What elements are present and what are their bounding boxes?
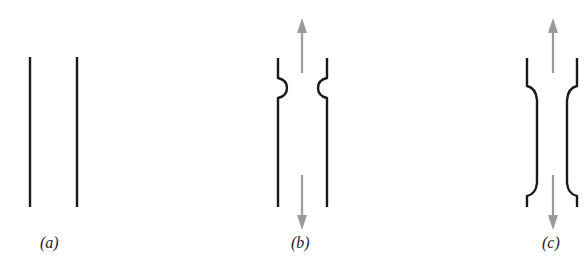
panel-b-down-arrow-icon (297, 175, 307, 230)
panel-b-up-arrow-icon (297, 18, 307, 73)
diagram-canvas (0, 0, 587, 269)
panel-c-up-arrow-icon (548, 18, 558, 73)
panel-a-label-text: (a) (40, 234, 59, 251)
panel-c-label-text: (c) (542, 234, 560, 251)
panel-b-left-wall (278, 58, 287, 207)
panel-c-down-arrow-icon (548, 175, 558, 230)
panel-a-walls (30, 57, 77, 207)
panel-c-label: (c) (542, 234, 560, 252)
panel-c-right-wall (567, 58, 577, 207)
panel-b-right-wall (318, 58, 327, 207)
panel-c-left-wall (527, 58, 537, 207)
panel-a-label: (a) (40, 234, 59, 252)
panel-b-label: (b) (291, 234, 310, 252)
panel-b-label-text: (b) (291, 234, 310, 251)
